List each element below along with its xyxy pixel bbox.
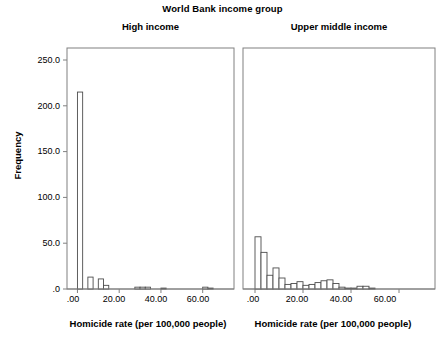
histogram-bar <box>267 275 273 289</box>
panel-frame <box>243 48 435 289</box>
histogram-bar <box>261 252 267 289</box>
histogram-bar <box>297 282 303 289</box>
histogram-bar <box>255 237 261 289</box>
histogram-figure: World Bank income group High income Uppe… <box>0 0 445 347</box>
histogram-bar <box>315 283 321 289</box>
histogram-bar <box>303 285 309 289</box>
histogram-bar <box>98 279 103 289</box>
histogram-bar <box>77 92 82 289</box>
histogram-bar <box>291 284 297 289</box>
panel-left-plot <box>63 48 234 293</box>
panel-right-plot <box>243 48 435 293</box>
histogram-bar <box>309 284 315 289</box>
histogram-bar <box>279 278 285 289</box>
histogram-bar <box>327 280 333 289</box>
histogram-bar <box>333 284 339 289</box>
histogram-bar <box>273 268 279 289</box>
panel-frame <box>67 48 234 289</box>
histogram-bar <box>88 277 93 289</box>
histogram-bar <box>321 281 327 289</box>
plot-canvas <box>0 0 445 347</box>
histogram-bar <box>104 285 109 289</box>
histogram-bar <box>285 284 291 289</box>
